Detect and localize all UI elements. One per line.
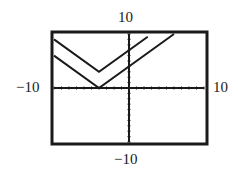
graph-window: [0, 0, 238, 180]
curves: [54, 34, 174, 88]
